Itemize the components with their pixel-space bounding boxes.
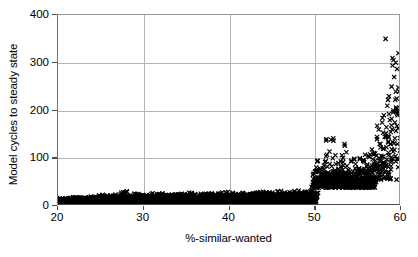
x-axis-tick-label: 40 (214, 211, 244, 224)
gridline-vertical (230, 15, 231, 204)
x-axis-tick-label: 50 (299, 211, 329, 224)
scatter-points-layer (58, 15, 399, 204)
gridline-horizontal (58, 158, 399, 159)
x-axis-tick-mark (57, 206, 58, 210)
y-axis-tick-label: 300 (19, 56, 49, 68)
gridline-vertical (315, 15, 316, 204)
gridline-vertical (144, 15, 145, 204)
y-axis-tick-label: 100 (19, 151, 49, 163)
plot-area (57, 14, 400, 205)
gridline-horizontal (58, 63, 399, 64)
x-axis-tick-label: 20 (42, 211, 72, 224)
x-axis-tick-mark (143, 206, 144, 210)
gridline-horizontal (58, 111, 399, 112)
scatter-marker-group (58, 15, 399, 204)
x-axis-tick-mark (314, 206, 315, 210)
scatter-chart-figure: Model cycles to steady state 01002003004… (0, 0, 418, 257)
x-axis-tick-label: 60 (385, 211, 415, 224)
y-axis-tick-label: 0 (19, 199, 49, 211)
x-axis-tick-label: 30 (128, 211, 158, 224)
x-axis-tick-mark (400, 206, 401, 210)
y-axis-tick-label: 200 (19, 104, 49, 116)
y-axis-tick-label: 400 (19, 8, 49, 20)
x-axis-tick-mark (229, 206, 230, 210)
x-axis-title: %-similar-wanted (57, 232, 400, 244)
